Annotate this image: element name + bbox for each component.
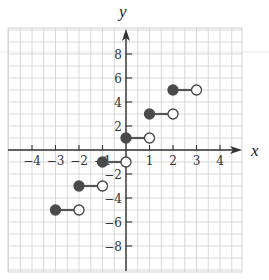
x-tick-label: −4 — [23, 154, 41, 168]
x-tick-label: 1 — [146, 154, 154, 168]
open-dot-icon — [74, 205, 84, 215]
y-tick-label: 8 — [114, 48, 122, 62]
step-function-chart: −4−3−2−112348642−2−4−6−8 x y — [0, 0, 269, 280]
y-tick-label: 4 — [114, 96, 122, 110]
x-tick-label: −3 — [47, 154, 65, 168]
closed-dot-icon — [145, 109, 155, 119]
closed-dot-icon — [74, 181, 84, 191]
y-tick-label: 2 — [114, 120, 122, 134]
open-dot-icon — [168, 109, 178, 119]
closed-dot-icon — [98, 157, 108, 167]
x-tick-label: 4 — [216, 154, 224, 168]
y-tick-label: −8 — [104, 240, 122, 254]
x-tick-label: 2 — [169, 154, 177, 168]
x-tick-label: 3 — [193, 154, 201, 168]
open-dot-icon — [145, 133, 155, 143]
open-dot-icon — [98, 181, 108, 191]
y-tick-label: −6 — [104, 216, 122, 230]
x-axis-label: x — [250, 141, 259, 160]
open-dot-icon — [192, 85, 202, 95]
open-dot-icon — [121, 157, 131, 167]
axes — [8, 29, 242, 271]
y-tick-label: 6 — [114, 72, 122, 86]
x-tick-label: −2 — [70, 154, 88, 168]
y-tick-label: −4 — [104, 192, 122, 206]
closed-dot-icon — [168, 85, 178, 95]
closed-dot-icon — [51, 205, 61, 215]
closed-dot-icon — [121, 133, 131, 143]
y-axis-label: y — [117, 2, 127, 21]
y-tick-label: −2 — [104, 168, 122, 182]
